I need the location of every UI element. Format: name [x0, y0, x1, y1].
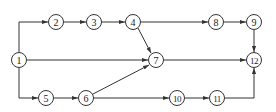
edges-layer: [19, 22, 254, 98]
node-label: 5: [44, 93, 49, 104]
node-label: 2: [54, 17, 59, 28]
node-2: 2: [49, 15, 64, 30]
node-11: 11: [210, 91, 225, 106]
node-4: 4: [126, 15, 141, 30]
node-6: 6: [79, 91, 94, 106]
node-10: 10: [170, 91, 185, 106]
node-1: 1: [12, 53, 27, 68]
node-7: 7: [149, 53, 164, 68]
node-label: 6: [84, 93, 89, 104]
edge-1-to-2: [19, 22, 48, 52]
node-5: 5: [39, 91, 54, 106]
edge-11-to-12: [225, 68, 254, 98]
node-3: 3: [87, 15, 102, 30]
node-label: 10: [173, 94, 182, 104]
node-label: 7: [154, 55, 159, 66]
node-9: 9: [247, 15, 262, 30]
node-8: 8: [209, 15, 224, 30]
network-diagram: 123456789101112: [0, 0, 276, 112]
edge-4-to-7: [138, 28, 151, 53]
node-label: 3: [92, 17, 97, 28]
node-label: 1: [17, 55, 22, 66]
edge-1-to-5: [19, 68, 38, 98]
edge-6-to-7: [93, 65, 149, 94]
node-12: 12: [247, 53, 262, 68]
node-label: 4: [131, 17, 136, 28]
node-label: 12: [250, 56, 258, 66]
node-label: 11: [213, 94, 221, 104]
node-label: 8: [214, 17, 219, 28]
node-label: 9: [252, 17, 257, 28]
